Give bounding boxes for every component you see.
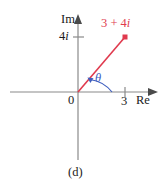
real-axis-label: Re: [136, 94, 150, 107]
complex-point-label: 3 + 4i: [101, 17, 130, 30]
imaginary-tick-label: 4i: [59, 30, 69, 43]
imaginary-tick-unit: i: [65, 29, 68, 43]
origin-label: 0: [68, 94, 74, 107]
figure-caption: (d): [68, 166, 83, 179]
complex-plane-figure: Im Re 4i 0 3 3 + 4i θ (d): [0, 0, 164, 186]
imaginary-axis: [74, 14, 82, 160]
complex-point-marker: [123, 35, 128, 40]
angle-label: θ: [95, 72, 101, 85]
imaginary-axis-arrowhead: [74, 14, 82, 24]
complex-point-label-real: 3 + 4: [101, 16, 127, 30]
real-tick-label: 3: [121, 95, 127, 108]
imaginary-axis-label: Im: [61, 13, 75, 26]
complex-point-label-unit: i: [127, 16, 130, 30]
